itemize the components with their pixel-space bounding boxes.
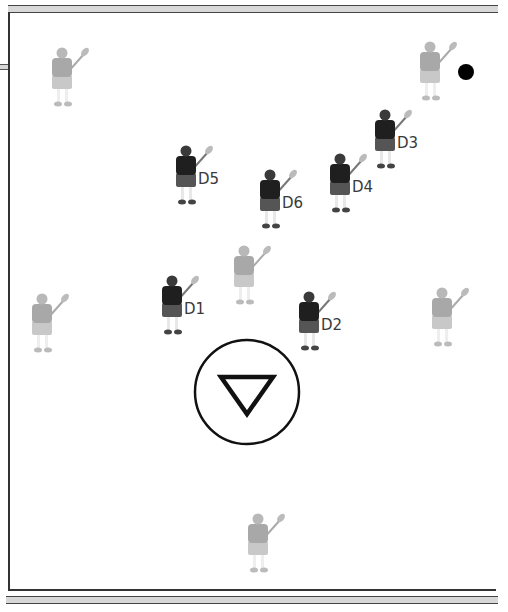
- lacrosse-field: D1D2D3D4D5D6: [0, 0, 508, 612]
- crease-circle: [195, 340, 299, 444]
- goal-triangle-icon: [221, 377, 273, 414]
- goal-crease: [0, 0, 508, 612]
